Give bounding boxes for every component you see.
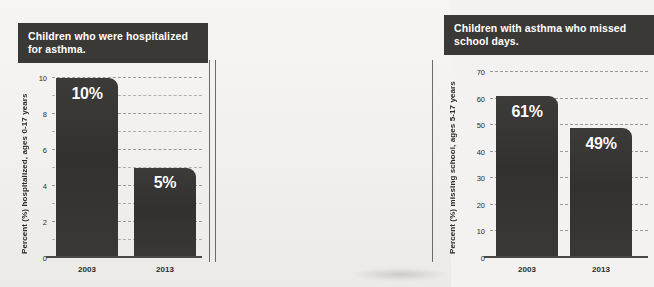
y-tick-40: 40 bbox=[477, 147, 485, 156]
plot-area-missed-school: 70 60 50 40 30 20 10 0 61% 2003 49% 2013 bbox=[490, 72, 648, 258]
y-tick-20: 20 bbox=[477, 200, 485, 209]
y-tick-8: 8 bbox=[43, 110, 47, 119]
y-tick-60: 60 bbox=[477, 94, 485, 103]
y-tick-10: 10 bbox=[39, 74, 47, 83]
chart-title-line-2: school days. bbox=[454, 35, 645, 48]
y-tick-70: 70 bbox=[477, 68, 485, 77]
y-tick-10: 10 bbox=[477, 227, 485, 236]
x-axis-baseline bbox=[484, 256, 648, 258]
chart-title-line-2: for asthma. bbox=[28, 43, 199, 56]
bar-value-2013: 49% bbox=[585, 128, 616, 258]
bar-value-2013: 5% bbox=[154, 168, 177, 258]
chart-panel-missed-school: Children with asthma who missed school d… bbox=[222, 0, 451, 287]
panel-divider-left bbox=[209, 60, 210, 262]
y-tick-4: 4 bbox=[43, 182, 47, 191]
scan-artifact bbox=[352, 268, 448, 281]
x-label-2003: 2003 bbox=[78, 265, 96, 274]
y-tick-0: 0 bbox=[43, 254, 47, 263]
x-axis-baseline bbox=[46, 256, 202, 258]
bar-value-2003: 10% bbox=[71, 78, 102, 258]
bar-2003[interactable]: 61% 2003 bbox=[496, 96, 558, 258]
chart-title-line-1: Children who were hospitalized bbox=[28, 30, 199, 43]
x-label-2013: 2013 bbox=[156, 265, 174, 274]
chart-title-missed-school: Children with asthma who missed school d… bbox=[444, 15, 654, 55]
x-label-2003: 2003 bbox=[518, 265, 536, 274]
chart-title-hospitalized: Children who were hospitalized for asthm… bbox=[18, 23, 208, 63]
y-tick-6: 6 bbox=[43, 146, 47, 155]
y-tick-30: 30 bbox=[477, 174, 485, 183]
chart-panel-hospitalized: Children who were hospitalized for asthm… bbox=[0, 0, 222, 287]
bar-2003[interactable]: 10% 2003 bbox=[56, 78, 118, 258]
plot-area-hospitalized: 10 8 6 4 2 0 10% 2003 5% 2013 bbox=[52, 78, 202, 258]
y-axis-label-hospitalized: Percent (%) hospitalized, ages 0-17 year… bbox=[20, 82, 29, 254]
y-tick-0: 0 bbox=[481, 254, 485, 263]
bar-value-2003: 61% bbox=[511, 96, 542, 258]
bar-2013[interactable]: 49% 2013 bbox=[570, 128, 632, 258]
x-label-2013: 2013 bbox=[592, 265, 610, 274]
panel-divider-right bbox=[215, 60, 216, 262]
y-tick-50: 50 bbox=[477, 121, 485, 130]
gridline-70 bbox=[490, 71, 648, 72]
y-axis-label-missed-school: Percent (%) missing school, ages 5-17 ye… bbox=[448, 76, 457, 254]
y-tick-2: 2 bbox=[43, 218, 47, 227]
bar-2013[interactable]: 5% 2013 bbox=[134, 168, 196, 258]
chart-title-line-1: Children with asthma who missed bbox=[454, 22, 645, 35]
